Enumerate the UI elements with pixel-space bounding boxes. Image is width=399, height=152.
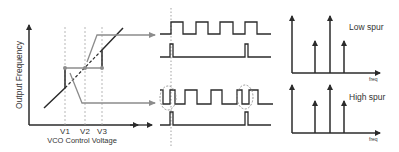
- waveforms: [130, 8, 273, 146]
- clean-pulse-train: [160, 44, 271, 57]
- vco-transfer-plot: Output Frequency V1 V2 V3 VCO Control Vo…: [14, 25, 155, 145]
- upper-mapping-arrow: [87, 35, 155, 62]
- disturbed-pulse-train: [160, 112, 271, 125]
- v1-point: [63, 66, 67, 70]
- spectrum-low-spur: Low spur freq: [292, 16, 384, 82]
- actual-transfer-upper: [102, 28, 123, 68]
- high-spur-label: High spur: [349, 92, 386, 102]
- freq-label: freq: [369, 136, 378, 142]
- glitch-highlight-2: [237, 85, 253, 109]
- spectrum-high-spur: High spur freq: [292, 85, 386, 142]
- clean-clock-waveform: [160, 22, 271, 34]
- v2-point: [83, 66, 87, 70]
- lower-mapping-arrow: [70, 73, 155, 103]
- v3-point: [100, 66, 104, 70]
- v1-label: V1: [60, 127, 70, 136]
- diagram-canvas: Output Frequency V1 V2 V3 VCO Control Vo…: [0, 0, 399, 152]
- v3-label: V3: [97, 127, 107, 136]
- vco-spur-diagram: Output Frequency V1 V2 V3 VCO Control Vo…: [0, 0, 399, 152]
- disturbed-clock-waveform: [160, 90, 273, 104]
- v2-label: V2: [80, 127, 90, 136]
- y-axis-label: Output Frequency: [14, 40, 24, 109]
- low-spur-label: Low spur: [349, 22, 384, 32]
- x-axis-label: VCO Control Voltage: [47, 136, 117, 145]
- actual-transfer-lower: [44, 68, 65, 108]
- freq-label: freq: [369, 76, 378, 82]
